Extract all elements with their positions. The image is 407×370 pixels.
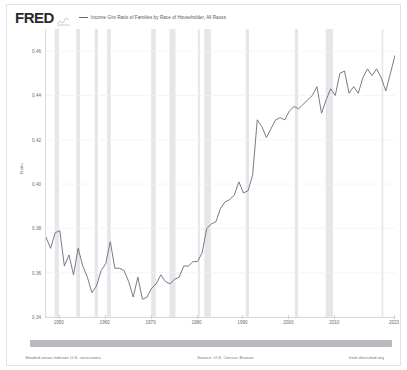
recession-note: Shaded areas indicate U.S. recessions. bbox=[25, 355, 102, 360]
x-tick-mark bbox=[151, 315, 152, 319]
recession-band bbox=[76, 29, 80, 317]
chart-legend[interactable]: Income Gini Ratio of Families by Race of… bbox=[79, 15, 226, 20]
site-label[interactable]: fred.stlouisfed.org bbox=[349, 355, 384, 360]
x-tick-label: 1980 bbox=[191, 320, 201, 325]
y-tick-label: 0.34 bbox=[15, 315, 41, 320]
plot-wrapper: Ratio 0.460.440.420.400.380.360.34 19501… bbox=[7, 27, 400, 337]
x-tick-label: 1990 bbox=[237, 320, 247, 325]
chart-scrollbar-track[interactable] bbox=[30, 340, 392, 347]
y-tick-label: 0.42 bbox=[15, 137, 41, 142]
chart-footer: Shaded areas indicate U.S. recessions. S… bbox=[7, 350, 400, 364]
recession-band bbox=[295, 29, 298, 317]
recession-band bbox=[170, 29, 176, 317]
legend-label: Income Gini Ratio of Families by Race of… bbox=[91, 15, 226, 20]
x-tick-mark bbox=[242, 315, 243, 319]
x-tick-label: 2023 bbox=[389, 320, 399, 325]
sparkline-icon bbox=[57, 12, 70, 22]
y-tick-label: 0.36 bbox=[15, 270, 41, 275]
y-tick-label: 0.44 bbox=[15, 93, 41, 98]
x-tick-mark bbox=[334, 315, 335, 319]
source-label: Source: U.S. Census Bureau bbox=[197, 355, 253, 360]
gridlines bbox=[46, 51, 395, 317]
x-tick-label: 2000 bbox=[283, 320, 293, 325]
recession-band bbox=[107, 29, 111, 317]
recession-band bbox=[382, 29, 384, 317]
x-tick-mark bbox=[288, 315, 289, 319]
y-tick-label: 0.40 bbox=[15, 182, 41, 187]
y-tick-label: 0.38 bbox=[15, 226, 41, 231]
fred-logo[interactable]: FRED bbox=[15, 10, 54, 25]
x-tick-label: 1970 bbox=[145, 320, 155, 325]
recession-band bbox=[151, 29, 156, 317]
recession-band bbox=[198, 29, 200, 317]
recession-band bbox=[204, 29, 210, 317]
recession-band bbox=[55, 29, 59, 317]
x-tick-mark bbox=[394, 315, 395, 319]
recession-band bbox=[326, 29, 333, 317]
recession-band bbox=[95, 29, 98, 317]
y-tick-label: 0.46 bbox=[15, 49, 41, 54]
recession-bands bbox=[55, 29, 384, 317]
chart-header: FRED Income Gini Ratio of Families by Ra… bbox=[7, 5, 400, 29]
series-line bbox=[46, 29, 395, 317]
plot-area[interactable] bbox=[45, 29, 395, 318]
x-tick-label: 2010 bbox=[329, 320, 339, 325]
fred-chart-widget: FRED Income Gini Ratio of Families by Ra… bbox=[0, 0, 407, 370]
x-tick-label: 1950 bbox=[54, 320, 64, 325]
x-tick-label: 1960 bbox=[100, 320, 110, 325]
x-tick-mark bbox=[59, 315, 60, 319]
x-tick-mark bbox=[197, 315, 198, 319]
data-line-all-races bbox=[46, 56, 395, 300]
recession-band bbox=[246, 29, 249, 317]
chart-scrollbar-thumb[interactable] bbox=[30, 340, 392, 347]
legend-line-swatch bbox=[79, 17, 88, 18]
x-tick-mark bbox=[105, 315, 106, 319]
